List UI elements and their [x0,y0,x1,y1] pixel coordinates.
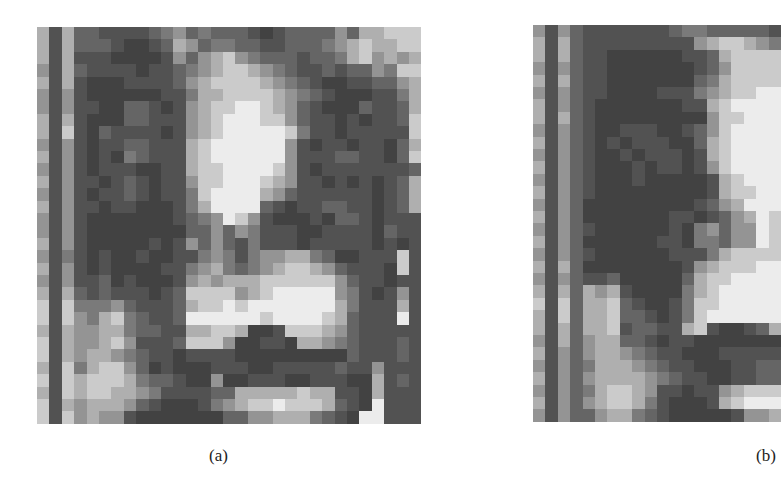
pixel-cell [372,163,384,176]
pixel-cell [707,261,719,273]
pixel-cell [620,409,632,422]
pixel-cell [397,77,409,89]
pixel-cell [645,409,657,422]
pixel-cell [87,188,99,201]
pixel-cell [707,186,719,199]
pixel-cell [719,372,731,385]
pixel-cell [372,287,384,300]
pixel-cell [161,64,173,77]
pixel-cell [719,310,731,323]
pixel-cell [310,374,322,387]
pixel-cell [620,124,632,137]
pixel-cell [74,176,87,188]
pixel-cell [310,101,322,114]
pixel-cell [49,27,62,39]
pixel-cell [173,139,186,151]
pixel-cell [198,188,211,201]
pixel-cell [744,298,756,310]
pixel-cell [545,223,558,236]
pixel-cell [682,397,694,409]
pixel-cell [409,411,421,424]
pixel-cell [99,362,111,374]
pixel-cell [632,323,645,335]
pixel-cell [347,163,359,176]
pixel-cell [124,201,136,213]
pixel-cell [595,87,607,99]
pixel-cell [223,151,235,163]
pixel-cell [297,139,310,151]
pixel-cell [285,176,297,188]
pixel-cell [694,335,707,347]
pixel-cell [297,101,310,114]
pixel-cell [248,114,260,126]
pixel-cell [37,126,49,139]
pixel-cell [545,236,558,248]
pixel-cell [211,176,223,188]
pixel-cell [744,347,756,360]
pixel-cell [111,387,124,399]
pixel-cell [248,64,260,77]
pixel-cell [595,298,607,310]
pixel-cell [744,87,756,99]
pixel-cell [111,64,124,77]
pixel-cell [335,387,347,399]
pixel-cell [694,323,707,335]
pixel-cell [161,362,173,374]
pixel-cell [297,300,310,312]
pixel-cell [74,263,87,275]
pixel-cell [223,213,235,225]
pixel-cell [173,250,186,263]
pixel-cell [533,112,545,124]
pixel-cell [570,347,583,360]
pixel-cell [322,39,335,52]
pixel-cell [707,199,719,211]
pixel-cell [49,188,62,201]
pixel-cell [607,62,620,75]
pixel-cell [533,75,545,87]
pixel-cell [285,64,297,77]
pixel-cell [173,387,186,399]
pixel-cell [632,161,645,174]
pixel-cell [669,99,682,112]
pixel-cell [248,101,260,114]
pixel-cell [211,213,223,225]
pixel-cell [297,213,310,225]
pixel-cell [248,250,260,263]
pixel-cell [645,137,657,149]
pixel-cell [235,101,248,114]
pixel-cell [149,89,161,101]
pixel-cell [620,347,632,360]
pixel-cell [769,25,781,37]
pixel-cell [74,188,87,201]
pixel-cell [620,87,632,99]
pixel-cell [273,139,285,151]
pixel-cell [136,77,149,89]
pixel-cell [397,139,409,151]
pixel-cell [657,112,669,124]
pixel-cell [273,176,285,188]
pixel-cell [409,188,421,201]
pixel-cell [359,139,372,151]
pixel-cell [211,225,223,238]
pixel-cell [62,411,74,424]
pixel-cell [669,75,682,87]
pixel-cell [694,397,707,409]
pixel-cell [570,285,583,298]
pixel-cell [310,114,322,126]
pixel-cell [74,362,87,374]
pixel-cell [211,411,223,424]
pixel-cell [694,372,707,385]
pixel-cell [409,163,421,176]
pixel-cell [607,409,620,422]
pixel-cell [409,52,421,64]
pixel-cell [595,372,607,385]
pixel-cell [657,298,669,310]
pixel-cell [657,409,669,422]
pixel-cell [136,89,149,101]
pixel-cell [583,372,595,385]
pixel-cell [49,176,62,188]
pixel-cell [409,213,421,225]
pixel-cell [595,248,607,261]
pixel-cell [645,149,657,161]
pixel-cell [335,325,347,337]
